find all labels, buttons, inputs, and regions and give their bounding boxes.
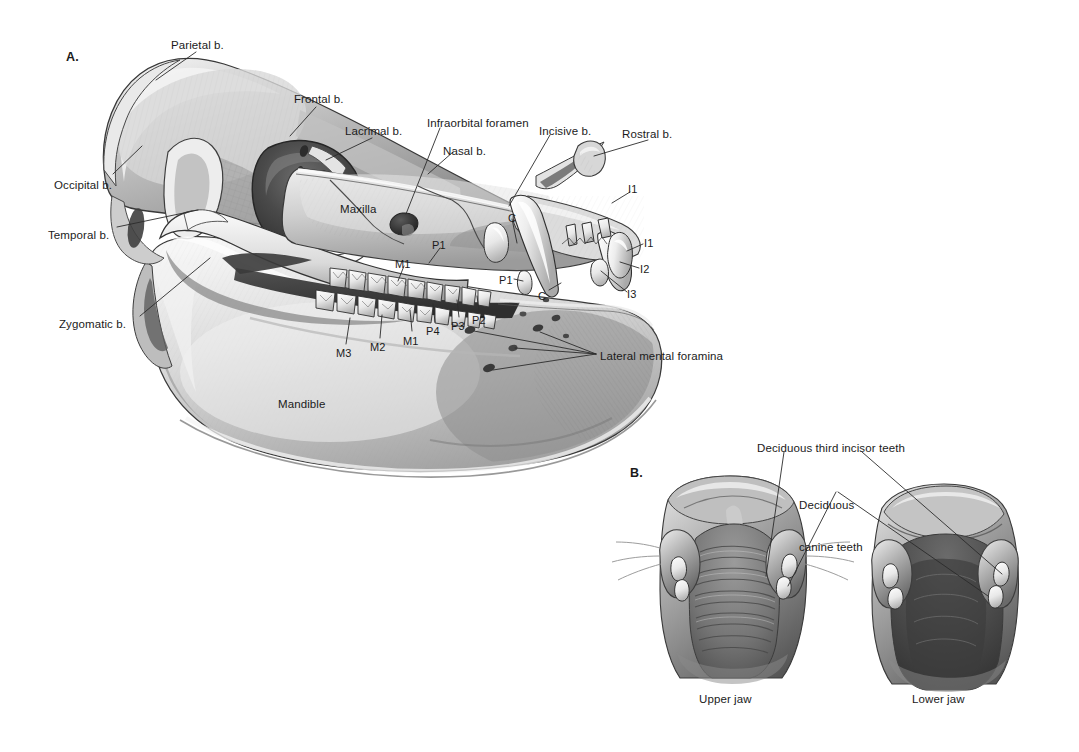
label-upper-m1: M1: [395, 258, 410, 272]
label-nasal-bone: Nasal b.: [443, 144, 486, 158]
label-lower-i2: I2: [640, 263, 649, 277]
label-occipital-bone: Occipital b.: [54, 178, 112, 192]
label-upper-i1: I1: [628, 183, 637, 197]
label-lower-i1: I1: [644, 237, 653, 251]
label-lower-p2: P2: [472, 314, 486, 328]
label-lacrimal-bone: Lacrimal b.: [345, 124, 402, 138]
label-rostral-bone: Rostral b.: [622, 127, 672, 141]
label-lower-m2: M2: [370, 341, 385, 355]
label-deciduous-third-incisor-teeth: Deciduous third incisor teeth: [757, 441, 905, 455]
panel-b-title: B.: [630, 466, 643, 482]
label-upper-p1: P1: [432, 239, 446, 253]
label-lower-canine: C: [538, 290, 546, 304]
label-lower-p4: P4: [426, 325, 440, 339]
caption-lower-jaw: Lower jaw: [912, 692, 965, 706]
label-parietal-bone: Parietal b.: [171, 38, 224, 52]
panel-a-title: A.: [66, 50, 79, 66]
anatomy-artwork: [0, 0, 1079, 752]
label-deciduous-canine-line-2: canine teeth: [799, 540, 863, 554]
caption-upper-jaw: Upper jaw: [699, 692, 752, 706]
label-deciduous-canine-line-1: Deciduous: [799, 498, 863, 512]
lower-jaw-tongue-shadow: [906, 559, 986, 681]
label-lower-p3: P3: [451, 320, 465, 334]
label-incisive-bone: Incisive b.: [539, 124, 591, 138]
label-lower-m3: M3: [336, 347, 351, 361]
lower-p1-tooth: [517, 271, 532, 295]
lower-incisor-i1-i2: [608, 232, 633, 278]
label-mandible: Mandible: [278, 397, 325, 411]
figure-plate: A. B. Parietal b. Frontal b. Lacrimal b.…: [0, 0, 1079, 752]
hard-palate: [689, 524, 779, 678]
lower-incisor-i3: [591, 259, 609, 286]
label-maxilla: Maxilla: [340, 202, 377, 216]
panel-a-skull: [103, 50, 676, 477]
label-infraorbital-foramen: Infraorbital foramen: [427, 116, 529, 130]
label-temporal-bone: Temporal b.: [48, 228, 109, 242]
label-lateral-mental-foramina: Lateral mental foramina: [600, 349, 723, 363]
label-upper-canine: C: [508, 212, 516, 226]
label-zygomatic-bone: Zygomatic b.: [59, 317, 126, 331]
label-lower-m1: M1: [403, 335, 418, 349]
label-deciduous-canine-teeth: Deciduous canine teeth: [799, 470, 863, 582]
label-lower-p1: P1: [499, 274, 513, 288]
label-lower-i3: I3: [627, 288, 636, 302]
label-frontal-bone: Frontal b.: [294, 92, 344, 106]
lower-jaw-group: [872, 484, 1019, 692]
